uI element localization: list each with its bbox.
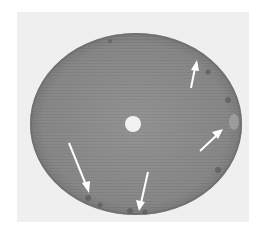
disc-photo xyxy=(0,0,259,234)
center-hole xyxy=(125,116,141,132)
